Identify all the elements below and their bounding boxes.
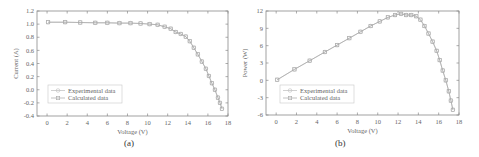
x-tick-label: 6 bbox=[106, 119, 110, 126]
y-tick-label: 0 bbox=[260, 77, 263, 84]
y-tick-label: -0.2 bbox=[24, 99, 34, 106]
y-tick-label: 0.2 bbox=[26, 73, 34, 80]
panel-label-a: (a) bbox=[124, 138, 134, 148]
x-tick-label: 8 bbox=[356, 118, 359, 125]
y-tick-label: -3 bbox=[258, 94, 263, 101]
chart-panel-b: 024681012141618-6-3036912Voltage (V)Powe… bbox=[240, 0, 479, 157]
x-tick-label: 10 bbox=[374, 118, 381, 125]
x-tick-label: 0 bbox=[275, 118, 278, 125]
x-tick-label: 2 bbox=[295, 118, 298, 125]
x-tick-label: 8 bbox=[126, 119, 129, 126]
x-tick-label: 10 bbox=[144, 119, 151, 126]
y-tick-label: 1.0 bbox=[26, 20, 34, 27]
x-tick-label: 16 bbox=[435, 118, 442, 125]
x-tick-label: 2 bbox=[66, 119, 69, 126]
y-tick-label: -6 bbox=[258, 111, 264, 118]
power-voltage-chart: 024681012141618-6-3036912Voltage (V)Powe… bbox=[240, 0, 479, 157]
x-tick-label: 14 bbox=[415, 118, 422, 125]
x-tick-label: 4 bbox=[86, 119, 90, 126]
y-tick-label: 1.2 bbox=[26, 7, 34, 14]
x-axis-label: Voltage (V) bbox=[117, 128, 147, 136]
legend-label: Experimental data bbox=[68, 87, 116, 94]
legend-label: Calculated data bbox=[68, 94, 108, 101]
x-tick-label: 12 bbox=[395, 118, 402, 125]
x-tick-label: 16 bbox=[205, 119, 212, 126]
x-tick-label: 4 bbox=[315, 118, 319, 125]
legend-label: Experimental data bbox=[300, 87, 348, 94]
y-axis-label: Power (W) bbox=[241, 49, 249, 78]
y-tick-label: 0.8 bbox=[26, 33, 34, 40]
y-tick-label: 0.0 bbox=[26, 86, 34, 93]
y-tick-label: 12 bbox=[257, 7, 264, 14]
panel-label-b: (b) bbox=[335, 138, 346, 148]
y-tick-label: 0.4 bbox=[26, 60, 35, 67]
y-tick-label: 3 bbox=[260, 59, 263, 66]
x-tick-label: 0 bbox=[45, 119, 48, 126]
y-tick-label: 6 bbox=[260, 42, 264, 49]
x-tick-label: 18 bbox=[456, 118, 463, 125]
x-tick-label: 14 bbox=[185, 119, 192, 126]
x-axis-label: Voltage (V) bbox=[347, 127, 377, 135]
y-tick-label: 0.6 bbox=[26, 47, 35, 54]
x-tick-label: 6 bbox=[335, 118, 339, 125]
current-voltage-chart: 024681012141618-0.4-0.20.00.20.40.60.81.… bbox=[0, 0, 240, 157]
y-axis-label: Current (A) bbox=[12, 48, 20, 79]
x-tick-label: 18 bbox=[225, 119, 232, 126]
y-tick-label: 9 bbox=[260, 25, 263, 32]
x-tick-label: 12 bbox=[164, 119, 171, 126]
y-tick-label: -0.4 bbox=[24, 112, 35, 119]
legend-label: Calculated data bbox=[300, 94, 340, 101]
chart-panel-a: 024681012141618-0.4-0.20.00.20.40.60.81.… bbox=[0, 0, 240, 157]
